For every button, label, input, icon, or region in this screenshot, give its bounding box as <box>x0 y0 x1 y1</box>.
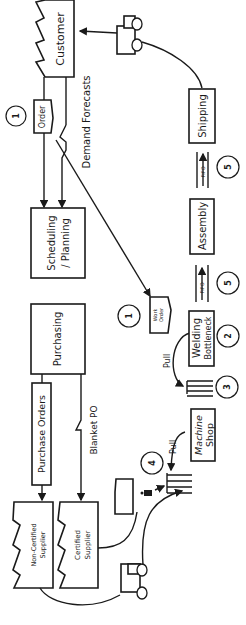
marker-4: 4 <box>141 452 163 474</box>
svg-text:Certified: Certified <box>74 530 82 560</box>
inventory-icon <box>187 381 213 396</box>
svg-text:4: 4 <box>148 460 157 466</box>
operator-icon <box>115 479 133 514</box>
svg-text:5: 5 <box>224 164 233 170</box>
svg-text:Supplier: Supplier <box>39 531 47 558</box>
truck-icon-customer <box>117 16 142 54</box>
machine-shop-node[interactable]: Machine Shop <box>191 409 215 461</box>
svg-text:/ Planning: / Planning <box>60 218 71 268</box>
svg-text:Order: Order <box>158 307 164 322</box>
shipping-node[interactable]: Shipping <box>189 89 215 143</box>
svg-text:Scheduling: Scheduling <box>46 215 57 270</box>
svg-text:FIFO: FIFO <box>200 166 206 177</box>
svg-text:Welding: Welding <box>191 318 202 358</box>
svg-text:Non-Certified: Non-Certified <box>30 523 38 566</box>
person-icon <box>141 490 153 496</box>
marker-5-upper: 5 <box>217 156 239 178</box>
order-node[interactable]: Order <box>34 100 53 133</box>
demand-forecasts-label: Demand Forecasts <box>81 75 92 168</box>
svg-text:Shop: Shop <box>204 423 215 447</box>
purchasing-node[interactable]: Purchasing <box>31 304 85 374</box>
svg-text:FIFO: FIFO <box>199 282 205 293</box>
welding-bottleneck-node[interactable]: Welding Bottleneck <box>189 311 214 366</box>
blanket-po-label: Blanket PO <box>89 405 99 454</box>
marker-1: 1 <box>6 106 26 126</box>
svg-text:Purchase Orders: Purchase Orders <box>36 395 47 473</box>
scheduling-planning-node[interactable]: Scheduling / Planning <box>31 208 85 278</box>
marker-3: 3 <box>216 376 238 398</box>
value-stream-map: Customer Order 1 Demand Forecasts Schedu… <box>0 0 246 625</box>
certified-supplier-node[interactable]: Certified Supplier <box>58 502 98 588</box>
fifo-lane-1: FIFO <box>196 265 208 302</box>
supermarket-icon <box>167 473 192 493</box>
customer-node[interactable]: Customer <box>36 0 74 77</box>
non-certified-supplier-node[interactable]: Non-Certified Supplier <box>13 502 53 588</box>
svg-text:1: 1 <box>12 113 21 119</box>
svg-text:Shipping: Shipping <box>197 94 208 138</box>
work-order-node[interactable]: Work Order <box>150 297 171 333</box>
svg-text:3: 3 <box>223 384 232 390</box>
svg-text:Machine: Machine <box>193 415 204 455</box>
marker-5-lower: 5 <box>217 272 239 294</box>
svg-text:Assembly: Assembly <box>197 202 208 250</box>
svg-text:Supplier: Supplier <box>84 530 92 559</box>
assembly-node[interactable]: Assembly <box>190 199 214 254</box>
svg-text:5: 5 <box>224 280 233 286</box>
svg-text:Bottleneck: Bottleneck <box>204 316 213 359</box>
order-label: Order <box>38 105 47 128</box>
svg-text:2: 2 <box>224 333 233 339</box>
purchase-orders-node[interactable]: Purchase Orders <box>32 383 51 485</box>
marker-2: 2 <box>217 325 239 347</box>
truck-icon-supplier <box>121 564 147 599</box>
pull-label-1: Pull <box>163 354 172 368</box>
customer-label: Customer <box>54 12 67 66</box>
fifo-lane-2: FIFO <box>197 152 208 188</box>
svg-text:Purchasing: Purchasing <box>52 312 63 367</box>
marker-1-work-order: 1 <box>118 305 140 327</box>
svg-text:1: 1 <box>125 313 134 319</box>
pull-label-2: Pull <box>169 440 178 454</box>
